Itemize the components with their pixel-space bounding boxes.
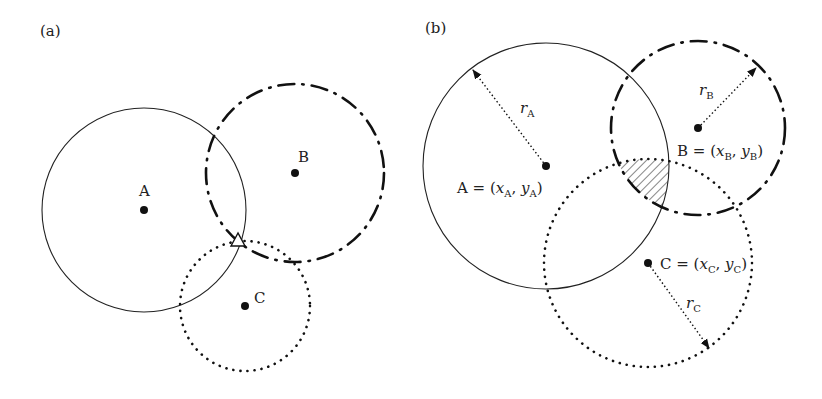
radius-c-label: rC [686, 294, 701, 314]
anchor-c-dot [241, 302, 249, 310]
radius-a-label: rA [520, 99, 535, 119]
panel-a-label: (a) [40, 22, 61, 40]
anchor-b-coords: B = (xB, yB) [677, 142, 763, 162]
anchor-c-label: C [254, 289, 265, 307]
panel-b-label: (b) [425, 19, 446, 37]
radius-a-arrow [473, 70, 546, 166]
anchor-a-coords: A = (xA, yA) [456, 179, 543, 199]
anchor-c-dot [644, 259, 652, 267]
anchor-b-label: B [298, 148, 309, 166]
trilateration-diagram: (a) A B C (b) rA rB rC [0, 0, 822, 399]
anchor-b-dot [291, 169, 299, 177]
anchor-a-dot [542, 162, 550, 170]
anchor-b-dot [694, 124, 702, 132]
anchor-c-coords: C = (xC, yC) [660, 255, 747, 275]
panel-a: (a) A B C [40, 22, 384, 371]
radius-b-label: rB [699, 81, 714, 101]
panel-b: (b) rA rB rC A = (xA, yA) B = (xB, yB) C… [423, 19, 785, 367]
anchor-a-label: A [138, 182, 150, 200]
anchor-a-dot [140, 206, 148, 214]
